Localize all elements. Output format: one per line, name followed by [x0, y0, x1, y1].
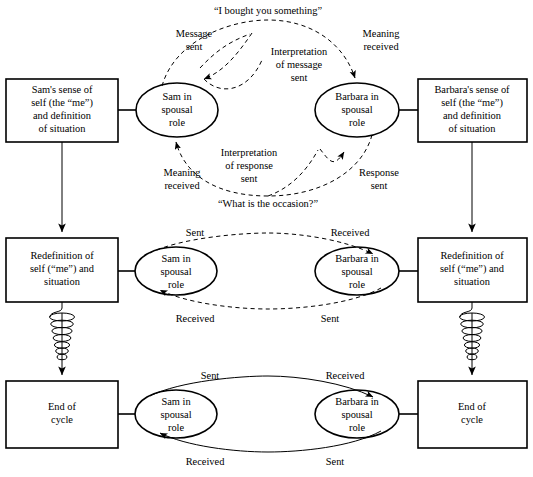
- meaning-received-bottom-line-1: Meaning: [164, 167, 201, 178]
- middle-left-box-line-3: situation: [44, 276, 81, 287]
- middle-right-box-line-2: self (“me”) and: [440, 263, 505, 275]
- top-left-oval-line-3: role: [169, 117, 186, 128]
- meaning-received-top-line-1: Meaning: [363, 28, 400, 39]
- top-right-oval-line-3: role: [349, 117, 366, 128]
- interp-response-line-1: Interpretation: [221, 147, 278, 158]
- bottom-left-oval-line-3: role: [168, 422, 185, 433]
- middle-received-left-label: Received: [176, 313, 215, 324]
- top-right-box-line-1: Barbara's sense of: [434, 84, 510, 95]
- bottom-right-box-line-1: End of: [458, 401, 487, 412]
- interp-response-line-2: of response: [225, 160, 273, 171]
- top-left-oval-line-1: Sam in: [162, 91, 192, 102]
- top-row-group: Sam's sense of self (the “me”) and defin…: [6, 5, 527, 209]
- middle-row-group: Redefinition of self (“me”) and situatio…: [6, 227, 527, 324]
- message-sent-label-line-1: Message: [176, 28, 213, 39]
- arc-message-sent-arrow: [204, 33, 252, 79]
- message-sent-label-line-2: sent: [186, 41, 203, 52]
- bottom-right-oval-line-2: spousal: [341, 409, 372, 420]
- bottom-row-group: End of cycle Sam in spousal role Barbara…: [6, 370, 527, 467]
- top-right-box-line-3: and definition: [443, 110, 502, 121]
- bottom-right-oval-line-3: role: [349, 422, 366, 433]
- middle-received-right-label: Received: [331, 227, 370, 238]
- top-left-box-line-4: of situation: [38, 123, 86, 134]
- response-sent-line-1: Response: [359, 167, 399, 178]
- interp-message-line-2: of message: [276, 59, 323, 70]
- bottom-received-right-label: Received: [326, 370, 365, 381]
- top-left-box-line-1: Sam's sense of: [32, 84, 93, 95]
- interp-message-line-3: sent: [291, 72, 308, 83]
- arc-interpretation-message-loop: [204, 60, 262, 89]
- top-right-box-line-2: self (the “me”): [441, 97, 503, 109]
- top-quote-label: “I bought you something”: [214, 5, 323, 16]
- diagram-canvas: Sam's sense of self (the “me”) and defin…: [0, 0, 533, 477]
- bottom-received-left-label: Received: [186, 456, 225, 467]
- arc-response-sent-arrow: [320, 149, 344, 162]
- middle-right-oval-line-3: role: [349, 279, 366, 290]
- bottom-sent-left-label: Sent: [201, 370, 220, 381]
- middle-right-oval-line-1: Barbara in: [335, 253, 379, 264]
- middle-sent-left-label: Sent: [186, 227, 205, 238]
- arc-response-to-sam: [176, 135, 372, 196]
- arc-quote-tail: [200, 34, 250, 68]
- middle-right-box-line-1: Redefinition of: [440, 250, 504, 261]
- bottom-quote-label: “What is the occasion?”: [218, 198, 318, 209]
- left-coil-group: [50, 302, 75, 375]
- meaning-received-bottom-line-2: received: [164, 180, 200, 191]
- middle-right-box-line-3: situation: [454, 276, 491, 287]
- interp-message-line-1: Interpretation: [271, 46, 328, 57]
- top-right-oval-line-2: spousal: [341, 104, 372, 115]
- right-coil-group: [460, 302, 485, 375]
- bottom-left-box-line-2: cycle: [51, 414, 73, 425]
- interp-response-line-3: sent: [241, 173, 258, 184]
- middle-right-oval-line-2: spousal: [341, 266, 372, 277]
- response-sent-line-2: sent: [371, 180, 388, 191]
- top-left-oval-line-2: spousal: [161, 104, 192, 115]
- middle-sent-right-label: Sent: [321, 313, 340, 324]
- top-left-box-line-2: self (the “me”): [31, 97, 93, 109]
- middle-left-box-line-1: Redefinition of: [30, 250, 94, 261]
- middle-left-oval-line-1: Sam in: [161, 253, 191, 264]
- bottom-right-oval-line-1: Barbara in: [335, 396, 379, 407]
- bottom-left-oval-line-2: spousal: [160, 409, 191, 420]
- bottom-right-box-line-2: cycle: [461, 414, 483, 425]
- bottom-left-oval-line-1: Sam in: [161, 396, 191, 407]
- interaction-cycle-diagram: Sam's sense of self (the “me”) and defin…: [0, 0, 533, 477]
- middle-left-oval-line-3: role: [168, 279, 185, 290]
- bottom-sent-right-label: Sent: [326, 456, 345, 467]
- middle-left-box-line-2: self (“me”) and: [30, 263, 95, 275]
- top-left-box-line-3: and definition: [33, 110, 92, 121]
- top-right-box-line-4: of situation: [448, 123, 496, 134]
- top-right-oval-line-1: Barbara in: [335, 91, 379, 102]
- bottom-left-box-line-1: End of: [48, 401, 77, 412]
- meaning-received-top-line-2: received: [363, 41, 399, 52]
- middle-left-oval-line-2: spousal: [160, 266, 191, 277]
